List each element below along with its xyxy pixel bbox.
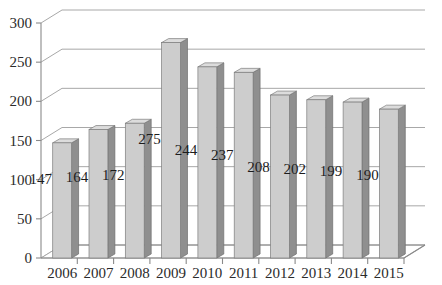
- gridline-depth-250: [41, 49, 62, 62]
- value-label-2013: 202: [284, 161, 307, 177]
- value-label-2009: 275: [138, 131, 161, 147]
- value-label-2007: 164: [66, 169, 89, 185]
- chart-canvas: 050100150200250300 200620072008200920102…: [0, 0, 442, 285]
- x-axis-tick-labels: 2006200720082009201020112012201320142015: [47, 265, 404, 281]
- bar-side-face-2006: [72, 139, 79, 258]
- x-tick-label-2009: 2009: [156, 265, 186, 281]
- x-tick-label-2013: 2013: [301, 265, 331, 281]
- bar-front-face-2006: [53, 143, 72, 258]
- y-tick-label-200: 200: [10, 93, 33, 109]
- bar-side-face-2015: [398, 105, 405, 258]
- x-tick-label-2008: 2008: [120, 265, 150, 281]
- value-label-2008: 172: [102, 167, 125, 183]
- x-tick-label-2007: 2007: [83, 265, 114, 281]
- y-axis-tick-labels: 050100150200250300: [10, 15, 33, 266]
- value-label-2015: 190: [356, 167, 379, 183]
- value-label-2006: 147: [29, 171, 52, 187]
- value-label-2012: 208: [247, 159, 270, 175]
- y-tick-label-250: 250: [10, 54, 33, 70]
- bar-2006: [53, 139, 79, 258]
- x-tick-label-2015: 2015: [374, 265, 404, 281]
- bar-front-face-2007: [89, 130, 108, 258]
- bar-side-face-2007: [108, 126, 115, 258]
- bar-chart: 050100150200250300 200620072008200920102…: [0, 0, 442, 285]
- bar-2015: [379, 105, 405, 258]
- gridline-depth-200: [41, 88, 62, 101]
- bar-2007: [89, 126, 115, 258]
- value-label-2014: 199: [320, 163, 343, 179]
- x-tick-label-2014: 2014: [338, 265, 369, 281]
- gridline-depth-300: [41, 10, 62, 23]
- x-tick-label-2010: 2010: [192, 265, 222, 281]
- y-tick-label-50: 50: [17, 211, 32, 227]
- gridline-depth-150: [41, 128, 62, 141]
- x-tick-label-2006: 2006: [47, 265, 78, 281]
- y-tick-label-150: 150: [10, 133, 33, 149]
- y-tick-label-300: 300: [10, 15, 33, 31]
- bar-front-face-2015: [379, 109, 398, 258]
- value-label-2010: 244: [175, 142, 198, 158]
- value-label-2011: 237: [211, 147, 234, 163]
- x-tick-label-2012: 2012: [265, 265, 295, 281]
- y-tick-label-0: 0: [25, 250, 33, 266]
- x-tick-label-2011: 2011: [229, 265, 258, 281]
